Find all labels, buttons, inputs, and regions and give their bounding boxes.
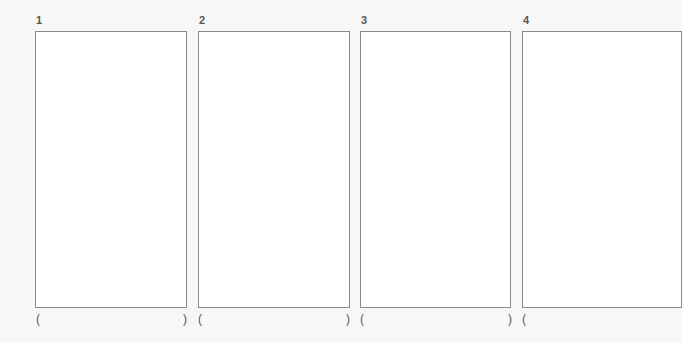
caption-open-paren: ( — [36, 312, 40, 326]
panel-frame — [35, 31, 187, 308]
caption-close-paren: ) — [508, 312, 512, 326]
caption-open-paren: ( — [198, 312, 202, 326]
panel-frame — [360, 31, 511, 308]
panel-number: 3 — [361, 14, 367, 26]
panel-number: 4 — [523, 14, 529, 26]
panel-frame — [522, 31, 682, 308]
panel-number: 2 — [199, 14, 205, 26]
caption-open-paren: ( — [522, 312, 526, 326]
caption-close-paren: ) — [183, 312, 187, 326]
caption-close-paren: ) — [346, 312, 350, 326]
panel-frame — [198, 31, 350, 308]
caption-open-paren: ( — [360, 312, 364, 326]
panel-number: 1 — [36, 14, 42, 26]
